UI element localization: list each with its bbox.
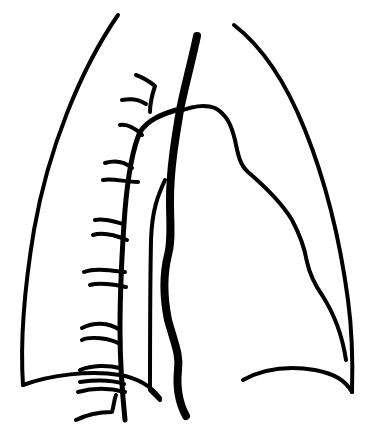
right-lung-outline (234, 25, 352, 392)
spine-ribs (76, 75, 176, 420)
chest-sketch-drawing (0, 0, 377, 436)
left-lung-outline (22, 15, 160, 398)
heart-outline (178, 106, 346, 360)
chest-sketch-canvas (0, 0, 377, 436)
central-thick-line (164, 36, 197, 416)
